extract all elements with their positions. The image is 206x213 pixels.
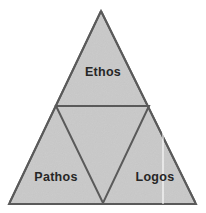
triangle-graphic	[0, 0, 206, 213]
region-label-pathos: Pathos	[34, 171, 77, 184]
region-label-logos: Logos	[136, 171, 175, 184]
rhetorical-triangle-diagram: Ethos Pathos Logos	[0, 0, 206, 213]
region-label-ethos: Ethos	[85, 66, 121, 79]
